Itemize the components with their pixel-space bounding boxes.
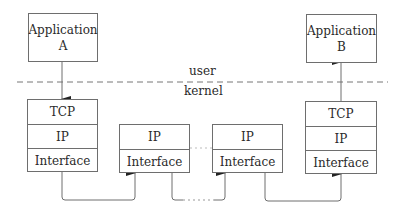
host-b-ip-layer: IP xyxy=(306,126,376,150)
router-1-interface-layer: Interface xyxy=(120,149,189,173)
application-a-line1: Application xyxy=(28,22,97,38)
user-label: user xyxy=(189,64,216,78)
router-2-stack: IP Interface xyxy=(212,124,283,173)
router-2-ip-layer: IP xyxy=(213,125,282,149)
application-a-line2: A xyxy=(59,38,68,54)
link-host-a-to-router-1 xyxy=(62,171,135,200)
host-a-tcp-layer: TCP xyxy=(28,100,97,124)
application-b-line2: B xyxy=(337,39,346,55)
application-a-box: Application A xyxy=(28,13,98,62)
host-b-stack: TCP IP Interface xyxy=(305,101,377,174)
application-b-box: Application B xyxy=(306,14,377,63)
host-a-stack: TCP IP Interface xyxy=(27,99,98,172)
host-b-interface-layer: Interface xyxy=(306,150,376,174)
kernel-label: kernel xyxy=(184,84,223,98)
link-router-1-to-router-2 xyxy=(172,172,183,200)
link-router-2-to-host-b xyxy=(265,172,341,201)
router-2-interface-layer: Interface xyxy=(213,149,282,173)
application-b-line1: Application xyxy=(307,23,376,39)
router-1-ip-layer: IP xyxy=(120,125,189,149)
host-a-interface-layer: Interface xyxy=(28,148,97,172)
host-b-tcp-layer: TCP xyxy=(306,102,376,126)
router-1-stack: IP Interface xyxy=(119,124,190,173)
host-a-ip-layer: IP xyxy=(28,124,97,148)
